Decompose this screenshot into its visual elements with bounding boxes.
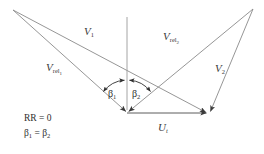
label-beta1: β1 [108, 84, 116, 100]
label-ut: Ut [158, 118, 168, 134]
label-vrel2: Vrel2 [163, 27, 179, 43]
velocity-triangle-figure: V1 Vrel1 Vrel2 V2 Ut β1 β2 RR = 0 β1 = β… [0, 0, 264, 154]
label-vrel1-symbol: V [46, 61, 53, 73]
label-v1: V1 [84, 22, 94, 38]
label-v2: V2 [215, 59, 225, 75]
label-ut-symbol: U [158, 121, 166, 133]
label-beta2-subscript: 2 [137, 93, 140, 100]
vector-line-vrel2 [129, 9, 253, 112]
label-beta1-subscript: 1 [113, 93, 116, 100]
label-v2-symbol: V [215, 62, 222, 74]
note-beta-equality: β1 = β2 [24, 129, 50, 139]
label-vrel2-subscript: rel2 [170, 36, 179, 43]
label-ut-subscript: t [166, 127, 168, 134]
note-rr-condition: RR = 0 [24, 114, 52, 124]
label-vrel1: Vrel1 [46, 58, 62, 74]
label-v2-subscript: 2 [222, 68, 225, 75]
note-rr-text: RR = 0 [24, 113, 52, 123]
label-vrel1-subscript: rel1 [53, 67, 62, 74]
label-vrel2-index: 2 [177, 40, 180, 45]
label-vrel1-index: 1 [60, 71, 63, 76]
label-v1-subscript: 1 [91, 31, 94, 38]
label-vrel2-symbol: V [163, 30, 170, 42]
note-beta-sub1: 1 [29, 132, 32, 139]
note-beta-middle: = β [32, 128, 47, 138]
label-beta2: β2 [132, 84, 140, 100]
label-v1-symbol: V [84, 25, 91, 37]
note-beta-sub2: 2 [47, 132, 50, 139]
